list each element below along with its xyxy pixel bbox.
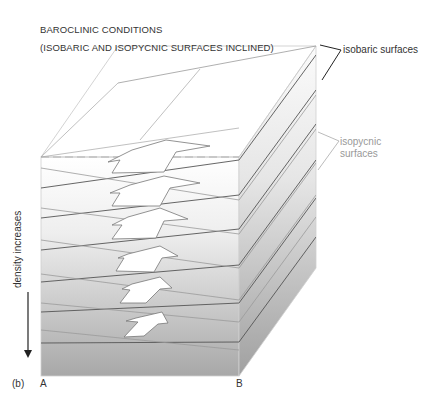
density-arrowhead bbox=[24, 350, 32, 358]
corner-a-label: A bbox=[40, 378, 47, 389]
isobaric-label: isobaric surfaces bbox=[343, 44, 418, 55]
isopycnic-label: isopycnic surfaces bbox=[340, 136, 400, 160]
isobaric-leader bbox=[320, 45, 341, 80]
diagram-title: BAROCLINIC CONDITIONS bbox=[40, 24, 162, 35]
density-label: density increases bbox=[12, 211, 23, 288]
corner-b-label: B bbox=[236, 378, 243, 389]
panel-label: (b) bbox=[12, 378, 24, 389]
baroclinic-block-diagram bbox=[0, 0, 431, 417]
diagram-subtitle: (ISOBARIC AND ISOPYCNIC SURFACES INCLINE… bbox=[40, 42, 274, 53]
isopycnic-leader bbox=[318, 132, 339, 170]
